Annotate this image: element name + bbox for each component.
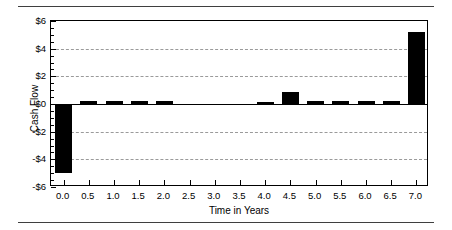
y-tick (51, 76, 56, 77)
figure: Cash Flow $6$4$2$0-$2-$4-$6 0.00.51.01.5… (0, 0, 452, 230)
y-tick-minor (51, 118, 54, 119)
x-axis-title: Time in Years (50, 205, 428, 216)
y-tick-minor (51, 146, 54, 147)
y-tick-minor (51, 69, 54, 70)
y-tick-minor (51, 28, 54, 29)
x-tick (164, 180, 165, 185)
y-tick-minor (51, 97, 54, 98)
y-tick-minor (51, 173, 54, 174)
top-rule (18, 6, 434, 7)
y-tick (51, 132, 56, 133)
y-tick-label: $0 (2, 99, 46, 108)
x-tick (416, 180, 417, 185)
x-tick (190, 180, 191, 185)
x-tick (139, 180, 140, 185)
y-tick-label: -$6 (2, 182, 46, 191)
x-tick-label: 7.0 (395, 190, 435, 201)
x-tick (64, 180, 65, 185)
y-tick-minor (51, 42, 54, 43)
x-tick (215, 180, 216, 185)
y-tick-minor (51, 56, 54, 57)
y-tick-minor (51, 166, 54, 167)
y-tick-minor (51, 125, 54, 126)
y-tick-minor (51, 35, 54, 36)
bottom-rule (18, 222, 434, 223)
y-tick-minor (51, 152, 54, 153)
y-tick-label: $4 (2, 43, 46, 52)
y-tick-minor (51, 139, 54, 140)
y-tick (51, 21, 56, 22)
x-tick (290, 180, 291, 185)
y-tick (51, 49, 56, 50)
y-tick-minor (51, 83, 54, 84)
y-tick (51, 104, 56, 105)
x-tick (341, 180, 342, 185)
y-tick-label: $2 (2, 71, 46, 80)
x-tick (391, 180, 392, 185)
x-tick (265, 180, 266, 185)
plot-area (50, 20, 428, 186)
y-tick-minor (51, 180, 54, 181)
y-tick-minor (51, 63, 54, 64)
y-tick-label: -$4 (2, 154, 46, 163)
x-tick (366, 180, 367, 185)
y-tick (51, 187, 56, 188)
y-tick (51, 159, 56, 160)
y-tick-label: -$2 (2, 126, 46, 135)
axis-ticks (51, 21, 427, 185)
y-tick-label: $6 (2, 16, 46, 25)
x-tick (316, 180, 317, 185)
x-tick (114, 180, 115, 185)
y-tick-minor (51, 90, 54, 91)
x-tick (89, 180, 90, 185)
x-tick (240, 180, 241, 185)
y-tick-minor (51, 111, 54, 112)
